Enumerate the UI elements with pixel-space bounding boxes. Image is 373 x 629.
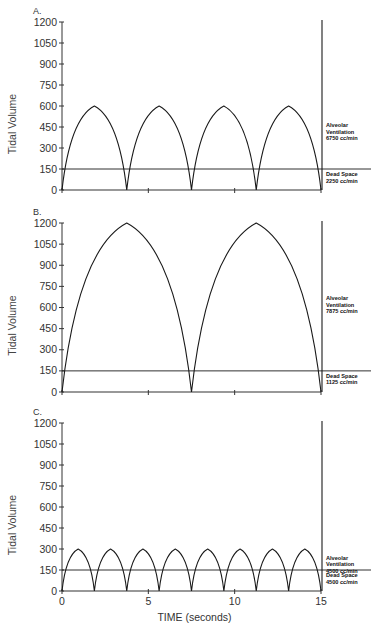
svg-text:7875 cc/min: 7875 cc/min [326, 308, 358, 314]
svg-text:2250 cc/min: 2250 cc/min [326, 178, 358, 184]
x-tick-label: 0 [59, 595, 65, 607]
svg-text:1125 cc/min: 1125 cc/min [326, 379, 358, 385]
x-axis-label: TIME (seconds) [157, 611, 231, 623]
panel-b: B.015030045060075090010501200Tidal Volum… [6, 207, 371, 398]
chart-canvas: A.015030045060075090010501200Tidal Volum… [0, 0, 373, 629]
svg-text:Alveolar: Alveolar [326, 555, 349, 561]
tidal-volume-figure: A.015030045060075090010501200Tidal Volum… [0, 0, 373, 629]
y-tick-label: 450 [39, 522, 57, 534]
y-tick-label: 900 [39, 58, 57, 70]
svg-text:Ventilation: Ventilation [326, 561, 355, 567]
y-axis-label: Tidal Volume [6, 495, 18, 555]
y-tick-label: 300 [39, 142, 57, 154]
svg-text:Dead Space: Dead Space [326, 373, 358, 379]
y-axis-label: Tidal Volume [6, 295, 18, 355]
alveolar-ventilation-note: AlveolarVentilation4500 cc/min [326, 555, 358, 574]
y-tick-label: 1050 [34, 438, 58, 450]
y-tick-label: 0 [51, 184, 57, 196]
y-tick-label: 600 [39, 501, 57, 513]
y-tick-label: 900 [39, 259, 57, 271]
y-tick-label: 1050 [34, 37, 58, 49]
panel-c: C.015030045060075090010501200Tidal Volum… [6, 407, 371, 623]
x-tick-label: 5 [145, 595, 151, 607]
y-tick-label: 150 [39, 163, 57, 175]
y-tick-label: 0 [51, 585, 57, 597]
y-tick-label: 450 [39, 322, 57, 334]
panel-letter: A. [33, 6, 42, 16]
y-tick-label: 600 [39, 100, 57, 112]
dead-space-note: Dead Space1125 cc/min [326, 373, 358, 386]
y-tick-label: 1200 [34, 417, 58, 429]
svg-text:Ventilation: Ventilation [326, 129, 355, 135]
svg-text:Dead Space: Dead Space [326, 572, 358, 578]
y-tick-label: 300 [39, 543, 57, 555]
alveolar-ventilation-note: AlveolarVentilation7875 cc/min [326, 295, 358, 314]
x-tick-label: 15 [315, 595, 327, 607]
y-tick-label: 1200 [34, 16, 58, 28]
tidal-volume-curve [62, 223, 321, 392]
x-tick-label: 10 [229, 595, 241, 607]
y-tick-label: 600 [39, 301, 57, 313]
y-tick-label: 0 [51, 386, 57, 398]
svg-text:Ventilation: Ventilation [326, 302, 355, 308]
y-tick-label: 750 [39, 280, 57, 292]
y-tick-label: 1200 [34, 217, 58, 229]
panel-a: A.015030045060075090010501200Tidal Volum… [6, 6, 371, 196]
y-tick-label: 150 [39, 364, 57, 376]
y-tick-label: 900 [39, 459, 57, 471]
y-tick-label: 450 [39, 121, 57, 133]
tidal-volume-curve [62, 106, 321, 190]
svg-text:6750 cc/min: 6750 cc/min [326, 135, 358, 141]
y-tick-label: 300 [39, 343, 57, 355]
alveolar-ventilation-note: AlveolarVentilation6750 cc/min [326, 122, 358, 141]
svg-text:Dead Space: Dead Space [326, 171, 358, 177]
svg-text:4500 cc/min: 4500 cc/min [326, 579, 358, 585]
y-tick-label: 150 [39, 564, 57, 576]
y-tick-label: 750 [39, 480, 57, 492]
y-axis-label: Tidal Volume [6, 94, 18, 154]
panel-letter: C. [33, 407, 42, 417]
panel-letter: B. [33, 207, 42, 217]
y-tick-label: 1050 [34, 238, 58, 250]
svg-text:Alveolar: Alveolar [326, 295, 349, 301]
y-tick-label: 750 [39, 79, 57, 91]
dead-space-note: Dead Space2250 cc/min [326, 171, 358, 184]
dead-space-note: Dead Space4500 cc/min [326, 572, 358, 585]
svg-text:Alveolar: Alveolar [326, 122, 349, 128]
